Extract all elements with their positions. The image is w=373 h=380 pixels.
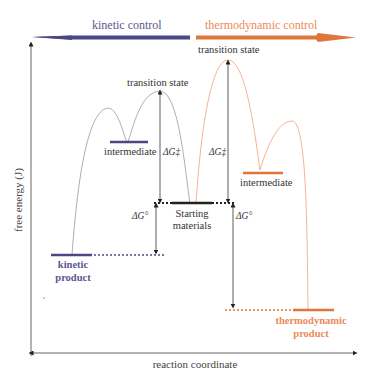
kinetic-product-label-2: product (55, 272, 91, 283)
thermodynamic-activation-label: ΔG‡ (208, 147, 226, 157)
starting-materials-label-2: materials (173, 220, 211, 231)
stray-mark (43, 297, 45, 299)
kinetic-activation-label: ΔG‡ (162, 147, 180, 157)
kinetic-delta-g-label: ΔG° (131, 211, 148, 221)
thermodynamic-control-arrow (196, 33, 356, 42)
thermodynamic-intermediate-label: intermediate (240, 177, 293, 188)
kinetic-intermediate-label: intermediate (104, 146, 157, 157)
thermodynamic-delta-g-label: ΔG° (235, 211, 252, 221)
kinetic-transition-state-label: transition state (127, 77, 189, 88)
x-axis-label: reaction coordinate (153, 358, 238, 370)
thermodynamic-transition-state-label: transition state (198, 44, 260, 55)
y-axis-label: free energy (J) (12, 168, 25, 232)
kinetic-product-label-1: kinetic (58, 259, 89, 270)
thermodynamic-product-label-2: product (293, 328, 329, 339)
energy-diagram: kinetic control thermodynamic control fr… (0, 0, 373, 380)
thermodynamic-control-label: thermodynamic control (205, 18, 318, 32)
thermodynamic-product-label-1: thermodynamic (275, 315, 346, 326)
starting-materials-label-1: Starting (175, 208, 209, 219)
kinetic-control-arrow (32, 36, 190, 41)
kinetic-control-label: kinetic control (92, 18, 162, 32)
